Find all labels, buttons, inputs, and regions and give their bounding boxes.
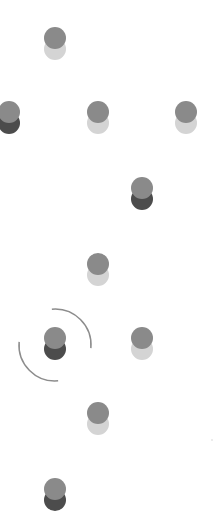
top-disc — [87, 253, 109, 275]
game-board — [0, 0, 221, 519]
game-piece[interactable] — [131, 177, 153, 210]
top-disc — [87, 402, 109, 424]
game-piece[interactable] — [175, 101, 197, 134]
top-disc — [44, 327, 66, 349]
game-piece[interactable] — [87, 402, 109, 435]
top-disc — [131, 177, 153, 199]
game-piece[interactable] — [87, 253, 109, 286]
game-piece[interactable] — [131, 327, 153, 360]
top-disc — [87, 101, 109, 123]
game-piece[interactable] — [44, 27, 66, 60]
game-piece[interactable] — [44, 478, 66, 511]
top-disc — [44, 27, 66, 49]
board-speck — [211, 439, 213, 441]
game-piece[interactable] — [0, 101, 20, 134]
game-piece-selected[interactable] — [44, 327, 66, 360]
selection-ring-icon — [0, 0, 221, 519]
game-piece[interactable] — [87, 101, 109, 134]
top-disc — [44, 478, 66, 500]
top-disc — [131, 327, 153, 349]
top-disc — [175, 101, 197, 123]
